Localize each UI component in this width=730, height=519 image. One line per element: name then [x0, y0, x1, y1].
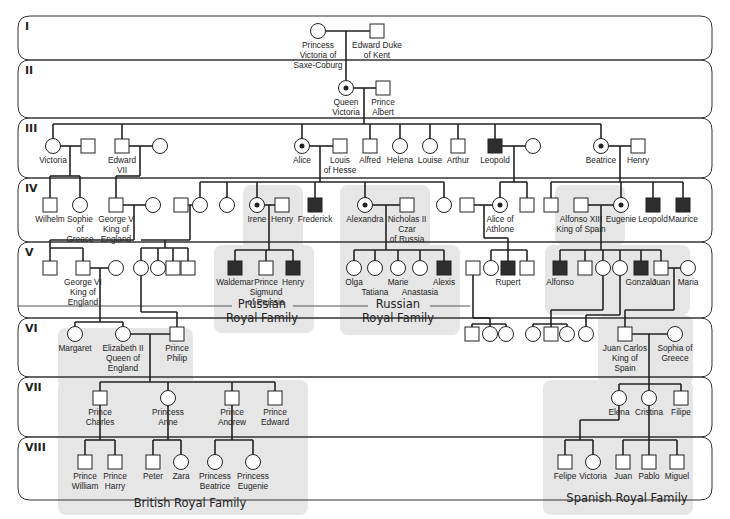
person-name: Margaret [58, 343, 92, 353]
person-name: Edward Duke [352, 40, 402, 50]
person-a4g[interactable] [220, 198, 235, 213]
person-lou[interactable]: Louise [418, 139, 443, 166]
person-alf[interactable]: Alfred [359, 139, 381, 165]
person-lh[interactable]: Louisof Hesse [324, 139, 357, 175]
female-circle-icon [499, 327, 514, 342]
person-sop[interactable]: SophieofGreece [66, 198, 94, 245]
carrier-dot-icon [619, 203, 624, 208]
person-name: Juan [652, 277, 670, 287]
affected-male-icon [646, 198, 660, 212]
person-al[interactable]: Alice [293, 139, 311, 166]
person-g5c1[interactable] [43, 261, 57, 275]
female-circle-icon [526, 327, 541, 342]
person-s6b[interactable] [544, 327, 558, 341]
family-label: Spanish Royal Family [566, 491, 687, 505]
person-s5f2[interactable] [613, 261, 628, 276]
person-s6a[interactable] [526, 327, 541, 342]
person-aas[interactable] [460, 198, 474, 212]
person-e7s[interactable] [153, 139, 168, 154]
person-art[interactable]: Arthur [447, 139, 470, 165]
male-square-icon [43, 261, 57, 275]
person-name: Peter [143, 471, 163, 481]
male-square-icon [376, 81, 390, 95]
person-r5m[interactable] [520, 261, 534, 275]
person-name: King of [612, 353, 639, 363]
person-c5c[interactable] [166, 261, 180, 275]
person-qv[interactable]: QueenVictoria [332, 81, 360, 118]
person-e7[interactable]: EdwardVII [108, 139, 137, 175]
person-name: King of [70, 287, 97, 297]
person-name: Henry [271, 214, 294, 224]
person-vic[interactable]: Victoria [39, 139, 67, 166]
person-name: King of Spain [556, 224, 606, 234]
person-l4m[interactable] [520, 198, 534, 212]
person-hen[interactable]: Henry [627, 139, 650, 165]
person-b4m[interactable] [544, 198, 558, 212]
female-circle-icon [151, 261, 166, 276]
person-c5b[interactable] [151, 261, 166, 276]
person-jua[interactable]: Juan [652, 261, 670, 287]
person-r6b[interactable] [483, 327, 498, 342]
person-g5s[interactable] [146, 198, 161, 213]
person-name: Rupert [496, 277, 522, 287]
person-wil[interactable]: Wilhelm [35, 198, 65, 224]
person-r6a[interactable] [465, 327, 479, 341]
male-square-icon [370, 24, 384, 38]
person-c5a[interactable] [134, 261, 149, 276]
person-leos[interactable] [526, 139, 541, 154]
person-g6s[interactable] [109, 261, 124, 276]
person-rsp[interactable] [466, 261, 480, 275]
person-fil[interactable]: Filipe [671, 391, 691, 417]
generation-label: I [25, 20, 29, 33]
person-a4m[interactable] [174, 198, 188, 212]
affected-male-icon [676, 198, 690, 212]
person-r6c[interactable] [499, 327, 514, 342]
female-circle-icon [161, 391, 176, 406]
person-s5f1[interactable] [596, 261, 611, 276]
generation-label: VIII [25, 441, 46, 454]
person-aoa[interactable]: Alice ofAthlone [486, 198, 515, 235]
person-jn8[interactable]: Juan [614, 455, 632, 481]
person-mau[interactable]: Maurice [668, 198, 698, 224]
male-square-icon [268, 391, 282, 405]
generation-label: VII [25, 381, 42, 394]
person-name: Nicholas II [388, 214, 427, 224]
female-circle-icon [596, 261, 611, 276]
male-square-icon [81, 139, 95, 153]
person-ed[interactable]: Edward Dukeof Kent [352, 24, 402, 60]
female-circle-icon [73, 198, 88, 213]
person-pa[interactable]: PrinceAlbert [371, 81, 395, 117]
person-name: Helena [387, 155, 414, 165]
person-vsp[interactable] [81, 139, 95, 153]
person-s6d[interactable] [579, 327, 594, 342]
person-bleo[interactable]: Leopold [638, 198, 668, 224]
person-s5m[interactable] [578, 261, 592, 275]
male-square-icon [174, 198, 188, 212]
person-pet[interactable]: Peter [143, 455, 163, 481]
person-name: Prince [165, 343, 189, 353]
person-r5f[interactable] [484, 261, 499, 276]
person-name: Alexis [433, 277, 455, 287]
carrier-dot-icon [344, 86, 349, 91]
generation-label: IV [25, 182, 38, 195]
male-square-icon [93, 391, 107, 405]
female-circle-icon [668, 327, 683, 342]
person-c5d[interactable] [181, 261, 195, 275]
person-leo[interactable]: Leopold [480, 139, 510, 165]
affected-male-icon [228, 261, 242, 275]
male-square-icon [574, 198, 588, 212]
person-name: Zara [172, 471, 189, 481]
person-a4h[interactable] [437, 198, 452, 213]
female-circle-icon [613, 261, 628, 276]
carrier-dot-icon [300, 144, 305, 149]
person-rup[interactable]: Rupert [496, 261, 522, 287]
male-square-icon [400, 198, 414, 212]
person-hel[interactable]: Helena [387, 139, 414, 166]
person-fre[interactable]: Frederick [298, 198, 333, 224]
person-a4f[interactable] [193, 198, 208, 213]
person-bea[interactable]: Beatrice [586, 139, 617, 166]
person-s6c[interactable] [560, 327, 575, 342]
male-square-icon [363, 139, 377, 153]
female-circle-icon [483, 327, 498, 342]
person-name: Andrew [218, 417, 247, 427]
